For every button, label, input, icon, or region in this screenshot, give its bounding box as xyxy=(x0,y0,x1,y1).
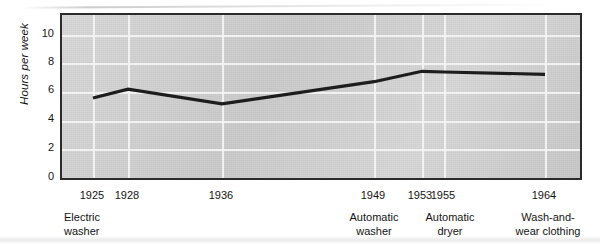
y-axis-label: Hours per week xyxy=(18,4,30,124)
y-tick-0: 0 xyxy=(28,171,54,182)
y-tick-4: 4 xyxy=(28,113,54,124)
y-tick-2: 2 xyxy=(28,142,54,153)
annotation-electric-washer: Electric washer xyxy=(64,211,138,238)
y-tick-6: 6 xyxy=(28,84,54,95)
y-tick-10: 10 xyxy=(28,28,54,39)
x-tick-1928: 1928 xyxy=(104,189,150,201)
x-tick-1964: 1964 xyxy=(521,189,567,201)
plot-area xyxy=(60,13,582,180)
x-tick-1936: 1936 xyxy=(198,189,244,201)
x-tick-1949: 1949 xyxy=(350,189,396,201)
y-tick-8: 8 xyxy=(28,56,54,67)
x-tick-1955: 1955 xyxy=(420,189,466,201)
annotation-automatic-dryer: Automatic dryer xyxy=(412,211,488,238)
chart-figure: 10 8 6 4 2 0 Hours per week 1925 1928 19… xyxy=(0,0,600,250)
scan-artifact-top xyxy=(22,3,562,8)
data-series-line xyxy=(62,15,580,178)
annotation-automatic-washer: Automatic washer xyxy=(336,211,412,238)
annotation-wash-and-wear: Wash-and- wear clothing xyxy=(498,211,598,238)
